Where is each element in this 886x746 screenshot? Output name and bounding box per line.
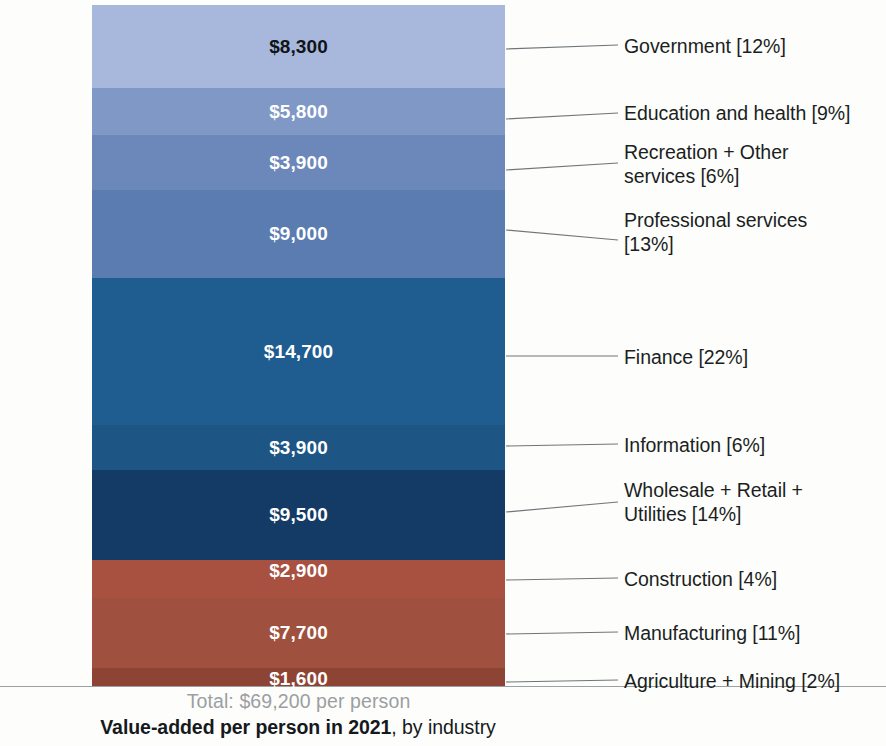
category-label-finance[interactable]: Finance [22%]	[624, 345, 748, 369]
leader-line-government	[506, 45, 618, 49]
chart-title-tail: , by industry	[391, 716, 495, 738]
segment-value-finance: $14,700	[264, 341, 333, 363]
leader-line-manufacturing	[506, 632, 618, 634]
chart-title: Value-added per person in 2021, by indus…	[38, 716, 558, 739]
chart-figure: $8,300 $5,800 $3,900 $9,000 $14,700 $3,9…	[0, 0, 886, 746]
leader-line-education-and-health	[506, 113, 618, 119]
segment-value-construction: $2,900	[269, 560, 328, 582]
category-label-construction[interactable]: Construction [4%]	[624, 567, 777, 591]
category-label-information[interactable]: Information [6%]	[624, 433, 765, 457]
bar-segment-professional-services[interactable]: $9,000	[92, 190, 505, 278]
leader-line-recreation-and-other-services	[506, 163, 618, 170]
segment-value-information: $3,900	[269, 437, 328, 459]
segment-value-agriculture-and-mining: $1,600	[269, 668, 328, 690]
category-label-government[interactable]: Government [12%]	[624, 34, 786, 58]
total-caption: Total: $69,200 per person	[92, 690, 505, 713]
leader-line-construction	[506, 578, 618, 580]
segment-value-manufacturing: $7,700	[269, 622, 328, 644]
bar-segment-finance[interactable]: $14,700	[92, 278, 505, 425]
category-label-agriculture-and-mining[interactable]: Agriculture + Mining [2%]	[624, 669, 840, 693]
category-label-professional-services[interactable]: Professional services [13%]	[624, 208, 807, 256]
segment-value-government: $8,300	[269, 36, 328, 58]
category-label-wholesale-retail-utilities[interactable]: Wholesale + Retail + Utilities [14%]	[624, 478, 803, 526]
leader-line-professional-services	[506, 230, 618, 240]
bar-segment-recreation-and-other-services[interactable]: $3,900	[92, 135, 505, 190]
category-label-manufacturing[interactable]: Manufacturing [11%]	[624, 621, 800, 645]
segment-value-wholesale-retail-utilities: $9,500	[269, 504, 328, 526]
bar-segment-agriculture-and-mining[interactable]: $1,600	[92, 668, 505, 686]
segment-value-education-and-health: $5,800	[269, 101, 328, 123]
category-label-recreation-and-other-services[interactable]: Recreation + Other services [6%]	[624, 140, 788, 188]
bar-segment-manufacturing[interactable]: $7,700	[92, 598, 505, 668]
segment-value-recreation-and-other-services: $3,900	[269, 152, 328, 174]
bar-segment-construction[interactable]: $2,900	[92, 560, 505, 598]
leader-line-information	[506, 444, 618, 446]
category-label-education-and-health[interactable]: Education and health [9%]	[624, 101, 850, 125]
stacked-bar-column: $8,300 $5,800 $3,900 $9,000 $14,700 $3,9…	[92, 5, 505, 686]
leader-line-wholesale-retail-utilities	[506, 502, 618, 512]
bar-segment-government[interactable]: $8,300	[92, 5, 505, 88]
bar-segment-wholesale-retail-utilities[interactable]: $9,500	[92, 470, 505, 560]
segment-value-professional-services: $9,000	[269, 223, 328, 245]
chart-title-bold: Value-added per person in 2021	[100, 716, 391, 738]
leader-line-agriculture-and-mining	[506, 680, 618, 682]
bar-segment-education-and-health[interactable]: $5,800	[92, 88, 505, 135]
bar-segment-information[interactable]: $3,900	[92, 425, 505, 470]
